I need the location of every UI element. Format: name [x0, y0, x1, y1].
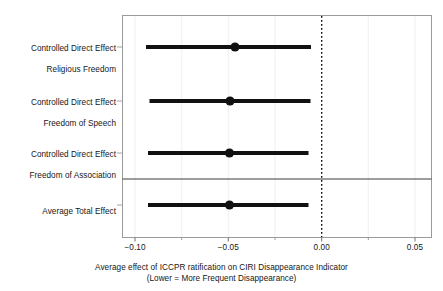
estimate-row-average-total-effect: [148, 200, 309, 209]
point-estimate-marker: [225, 96, 234, 105]
xtick-label-0-00: 0.00: [302, 243, 342, 252]
x-axis-caption-line2: (Lower = More Frequent Disappearance): [0, 273, 443, 284]
point-estimate-marker: [225, 148, 234, 157]
x-axis-ticks: [135, 238, 415, 242]
point-estimate-marker: [225, 200, 234, 209]
xtick-label-neg-0-10: −0.10: [115, 243, 155, 252]
xtick-label-neg-0-05: −0.05: [208, 243, 248, 252]
estimate-row-freedom-of-association: [148, 148, 309, 157]
point-estimate-marker: [230, 42, 239, 51]
x-axis-caption-line1: Average effect of ICCPR ratification on …: [0, 262, 443, 273]
y-axis-ticks: [117, 47, 122, 205]
estimate-row-freedom-of-speech: [150, 96, 311, 105]
coefficient-plot-figure: Controlled Direct Effect Religious Freed…: [0, 0, 443, 291]
xtick-label-0-05: 0.05: [395, 243, 435, 252]
